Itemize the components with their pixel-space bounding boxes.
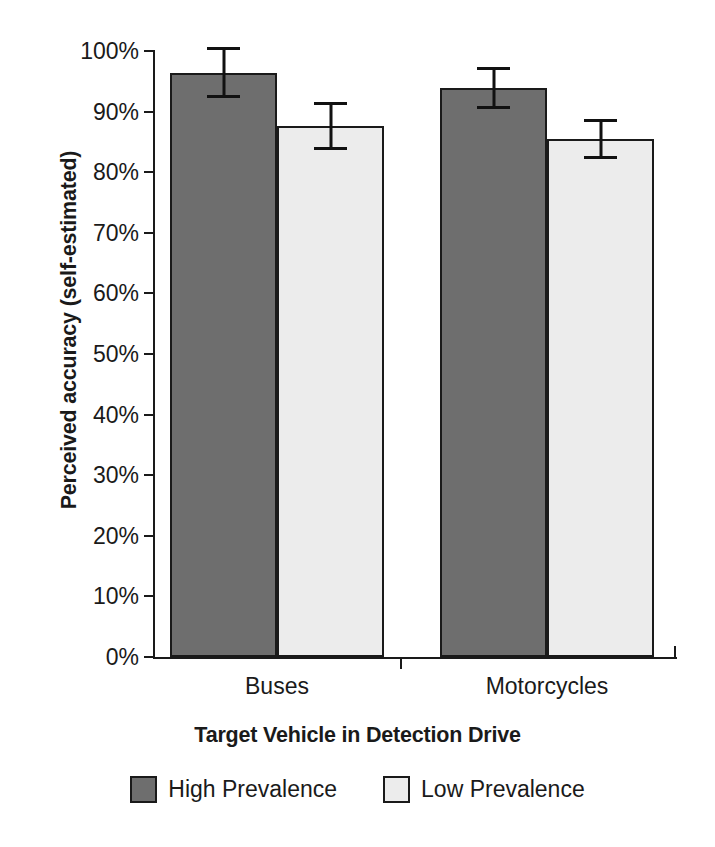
plot-area: 100% 90% 80% 70% 60% 50% 40% 30% 20% 10%… [155, 51, 675, 657]
y-tick-mark-60 [144, 292, 155, 294]
bar-buses-low-prevalence [277, 126, 384, 657]
y-tick-label-0: 0% [106, 644, 139, 671]
legend-swatch-icon-low-prevalence [383, 776, 410, 803]
y-tick-label-30: 30% [93, 462, 139, 489]
y-tick-label-20: 20% [93, 522, 139, 549]
legend-swatch-icon-high-prevalence [130, 776, 157, 803]
error-bar-stem [329, 102, 332, 150]
legend-item-low-prevalence: Low Prevalence [383, 776, 585, 803]
error-bar-cap-top [477, 67, 510, 70]
x-axis-end-cap [674, 646, 676, 658]
x-group-divider-tick [400, 657, 402, 669]
bar-buses-high-prevalence [170, 73, 277, 657]
error-bar-buses-low-prevalence [314, 102, 347, 150]
error-bar-cap-bottom [314, 147, 347, 150]
y-tick-mark-50 [144, 353, 155, 355]
legend-label-high-prevalence: High Prevalence [168, 776, 337, 803]
bar-chart-figure: Perceived accuracy (self-estimated) 100%… [0, 0, 715, 847]
legend-label-low-prevalence: Low Prevalence [421, 776, 585, 803]
x-tick-label-buses: Buses [245, 673, 309, 700]
cropped-title-artifact [0, 0, 715, 8]
bar-motorcycles-high-prevalence [440, 88, 547, 657]
y-tick-mark-30 [144, 474, 155, 476]
y-tick-label-90: 90% [93, 98, 139, 125]
error-bar-stem [599, 119, 602, 159]
y-tick-label-40: 40% [93, 401, 139, 428]
error-bar-motorcycles-low-prevalence [584, 119, 617, 159]
chart-legend: High Prevalence Low Prevalence [0, 776, 715, 803]
x-axis-line [153, 657, 677, 659]
y-tick-mark-40 [144, 414, 155, 416]
y-tick-label-70: 70% [93, 219, 139, 246]
y-tick-mark-90 [144, 111, 155, 113]
y-tick-label-80: 80% [93, 159, 139, 186]
error-bar-stem [492, 67, 495, 108]
y-tick-label-10: 10% [93, 583, 139, 610]
y-tick-label-100: 100% [80, 38, 139, 65]
y-tick-mark-100 [144, 50, 155, 52]
error-bar-motorcycles-high-prevalence [477, 67, 510, 108]
y-tick-mark-0 [144, 656, 155, 658]
y-tick-label-60: 60% [93, 280, 139, 307]
error-bar-stem [222, 47, 225, 98]
error-bar-cap-bottom [584, 156, 617, 159]
y-tick-mark-20 [144, 535, 155, 537]
legend-item-high-prevalence: High Prevalence [130, 776, 337, 803]
y-tick-mark-70 [144, 232, 155, 234]
x-tick-label-motorcycles: Motorcycles [486, 673, 609, 700]
y-tick-label-50: 50% [93, 341, 139, 368]
bar-motorcycles-low-prevalence [547, 139, 654, 657]
error-bar-cap-top [314, 102, 347, 105]
y-tick-mark-10 [144, 595, 155, 597]
x-axis-title: Target Vehicle in Detection Drive [0, 723, 715, 748]
error-bar-cap-bottom [477, 106, 510, 109]
error-bar-cap-top [207, 47, 240, 50]
error-bar-cap-top [584, 119, 617, 122]
error-bar-buses-high-prevalence [207, 47, 240, 98]
y-tick-mark-80 [144, 171, 155, 173]
y-axis-title: Perceived accuracy (self-estimated) [46, 0, 92, 660]
error-bar-cap-bottom [207, 95, 240, 98]
